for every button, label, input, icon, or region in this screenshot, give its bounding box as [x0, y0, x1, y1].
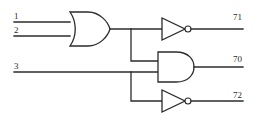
- output-label-71: 71: [233, 13, 242, 22]
- input-label-1: 1: [14, 12, 19, 21]
- not-gate-top-bubble-icon: [185, 26, 191, 32]
- or-gate-body: [70, 12, 110, 46]
- logic-circuit-diagram: 1 2 3 71 70 72: [0, 0, 255, 125]
- output-label-70: 70: [233, 55, 242, 64]
- output-label-72: 72: [233, 91, 242, 100]
- input-label-3: 3: [14, 62, 19, 71]
- and-gate-body: [158, 52, 194, 82]
- input-label-2: 2: [14, 26, 19, 35]
- not-gate-top-body: [162, 18, 185, 40]
- circuit-schematic-svg: [0, 0, 255, 125]
- not-gate-bottom-bubble-icon: [185, 98, 191, 104]
- not-gate-bottom-body: [162, 90, 185, 112]
- wire-or-to-and: [131, 29, 158, 61]
